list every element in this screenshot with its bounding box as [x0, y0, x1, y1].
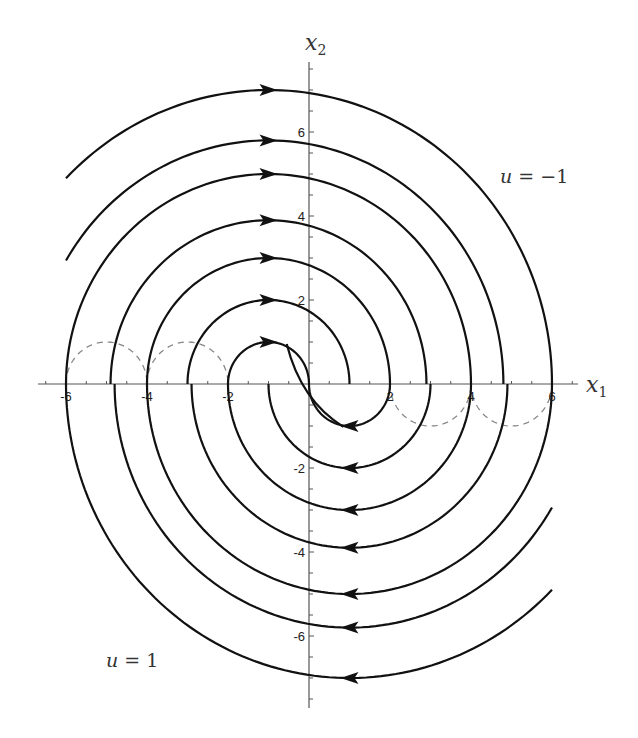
trajectory-arc-u-minus-1 [66, 140, 503, 384]
trajectory-arc-u-minus-1 [228, 342, 309, 384]
trajectory-arc-u-minus-1 [147, 258, 390, 384]
trajectory-inner-connector [287, 344, 344, 427]
x2-axis-label: x2 [305, 30, 326, 58]
trajectory-arc-u-minus-1 [66, 174, 471, 384]
x2-tick-label: -6 [293, 629, 305, 644]
x2-tick-label: 6 [298, 125, 305, 140]
x2-tick-label: 4 [298, 209, 305, 224]
x1-axis-label: x1 [586, 372, 607, 400]
phase-portrait-diagram: -6-4-2246-6-4-2246 x1 x2 u = −1 u = 1 [0, 0, 638, 738]
region-label-u-minus-1: u = −1 [500, 165, 568, 187]
switching-curve-lower [471, 384, 552, 426]
trajectory-arc-u-plus-1 [309, 384, 390, 426]
switching-curve-upper [66, 342, 147, 384]
x2-tick-label: -4 [293, 545, 305, 560]
trajectory-arc-u-plus-1 [147, 384, 552, 594]
trajectory-arc-u-plus-1 [228, 384, 471, 510]
region-label-u-plus-1: u = 1 [106, 649, 158, 671]
x2-tick-label: -2 [293, 461, 305, 476]
